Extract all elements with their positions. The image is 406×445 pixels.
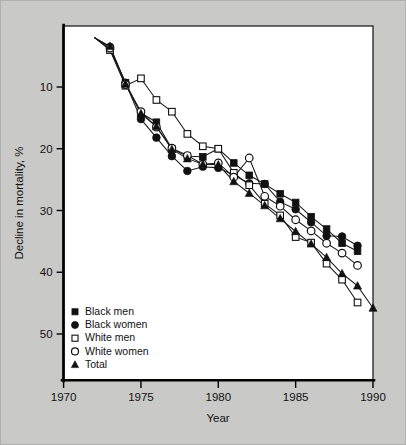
x-tick-label: 1985 (283, 391, 309, 403)
x-tick-label: 1980 (206, 391, 232, 403)
legend-item-label: Black men (85, 305, 134, 317)
data-point-filled-circle (72, 322, 79, 329)
data-point-filled-circle (307, 218, 315, 226)
data-point-filled-square (246, 172, 253, 179)
data-point-open-square (323, 260, 330, 267)
data-point-filled-circle (184, 167, 192, 175)
y-tick-label: 40 (40, 266, 53, 278)
y-tick-label: 10 (40, 81, 53, 93)
data-point-filled-square (323, 226, 330, 233)
data-point-open-circle (307, 227, 315, 235)
x-tick-label: 1975 (128, 391, 154, 403)
data-point-filled-square (72, 309, 78, 315)
data-point-open-circle (245, 154, 253, 162)
data-point-filled-circle (323, 232, 331, 240)
x-axis-title: Year (206, 412, 229, 424)
data-point-filled-square (339, 240, 346, 247)
data-point-open-circle (72, 348, 79, 355)
y-axis-ticks: 1020304050 (40, 81, 64, 340)
x-axis-ticks: 19701975198019851990 (51, 380, 386, 403)
y-tick-label: 50 (40, 328, 53, 340)
data-point-filled-circle (168, 152, 176, 160)
y-tick-label: 20 (40, 143, 53, 155)
legend-item-label: Black women (85, 318, 148, 330)
data-point-open-square (339, 276, 346, 283)
legend-item-label: White men (85, 331, 135, 343)
chart-canvas: 1020304050 19701975198019851990 Year Dec… (1, 1, 406, 445)
y-tick-label: 30 (40, 205, 53, 217)
data-point-open-square (200, 143, 207, 150)
data-point-filled-circle (292, 205, 300, 213)
data-point-filled-square (230, 160, 237, 167)
data-point-open-circle (261, 192, 269, 200)
data-point-open-square (215, 145, 222, 152)
data-point-filled-square (200, 153, 207, 160)
data-point-open-square (169, 108, 176, 115)
x-tick-label: 1990 (360, 391, 386, 403)
data-point-open-circle (338, 249, 346, 257)
data-point-open-circle (323, 239, 331, 247)
data-point-filled-circle (354, 242, 362, 250)
data-point-filled-square (292, 199, 299, 206)
data-point-open-circle (354, 262, 362, 270)
legend-item-label: White women (85, 345, 149, 357)
y-axis-title: Decline in mortality, % (13, 147, 25, 260)
data-point-open-circle (276, 202, 284, 210)
data-point-filled-circle (261, 180, 269, 188)
data-point-filled-circle (153, 134, 161, 142)
data-point-open-square (354, 299, 361, 306)
data-point-open-square (184, 131, 191, 138)
data-point-open-square (153, 97, 160, 104)
chart-figure: 1020304050 19701975198019851990 Year Dec… (0, 0, 406, 445)
legend-item-label: Total (85, 358, 107, 370)
data-point-open-square (246, 182, 253, 189)
data-point-open-circle (292, 216, 300, 224)
x-tick-label: 1970 (51, 391, 77, 403)
data-point-open-square (72, 335, 78, 341)
data-point-filled-square (277, 191, 284, 198)
data-point-open-square (138, 75, 145, 82)
data-point-filled-circle (338, 233, 346, 241)
